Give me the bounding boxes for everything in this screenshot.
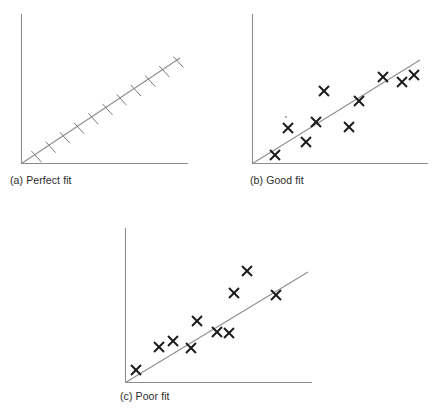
panel-c-plot — [110, 210, 325, 395]
regression-fit-figure: (a) Perfect fit — [0, 0, 435, 419]
x-marker — [168, 336, 178, 346]
x-marker — [344, 122, 354, 132]
panel-c-axes — [126, 228, 313, 383]
caption-good-fit: (b) Good fit — [250, 174, 304, 186]
x-marker — [192, 316, 202, 326]
x-marker — [270, 150, 280, 160]
x-marker — [409, 70, 419, 80]
x-marker — [242, 266, 252, 276]
stray-speck — [285, 116, 287, 118]
panel-perfect-fit — [0, 0, 200, 172]
panel-poor-fit — [110, 210, 325, 395]
panel-b-data-markers — [270, 70, 419, 160]
panel-a-plot — [0, 0, 200, 172]
panel-b-plot — [240, 0, 435, 172]
x-marker — [229, 288, 239, 298]
panel-good-fit — [240, 0, 435, 172]
panel-a-fit-line — [22, 58, 181, 164]
panel-c-data-markers — [131, 266, 281, 375]
x-marker — [301, 137, 311, 147]
panel-b-axes — [253, 14, 429, 164]
x-marker — [212, 327, 222, 337]
x-marker — [319, 86, 329, 96]
x-marker — [378, 72, 388, 82]
caption-perfect-fit: (a) Perfect fit — [10, 174, 72, 186]
x-marker — [397, 77, 407, 87]
x-marker — [154, 342, 164, 352]
x-marker — [131, 365, 141, 375]
panel-b-fit-line — [253, 60, 421, 164]
x-marker — [186, 343, 196, 353]
caption-poor-fit: (c) Poor fit — [120, 390, 170, 402]
panel-c-fit-line — [126, 272, 309, 383]
x-marker — [283, 123, 293, 133]
panel-a-data-markers — [32, 57, 184, 163]
panel-a-axes — [22, 14, 189, 164]
x-marker — [224, 328, 234, 338]
